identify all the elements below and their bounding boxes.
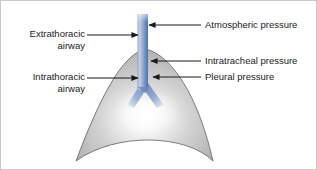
label-extrathoracic-airway: Extrathoracic airway [7, 28, 85, 51]
hilum-glow [113, 89, 181, 133]
trachea-and-bronchi [138, 14, 149, 93]
label-pleural-pressure: Pleural pressure [205, 71, 315, 83]
label-intrathoracic-airway: Intrathoracic airway [7, 71, 85, 94]
label-intratracheal-pressure: Intratracheal pressure [205, 55, 315, 67]
diagram-canvas: Extrathoracic airway Intrathoracic airwa… [0, 0, 317, 170]
label-atmospheric-pressure: Atmospheric pressure [205, 19, 315, 31]
